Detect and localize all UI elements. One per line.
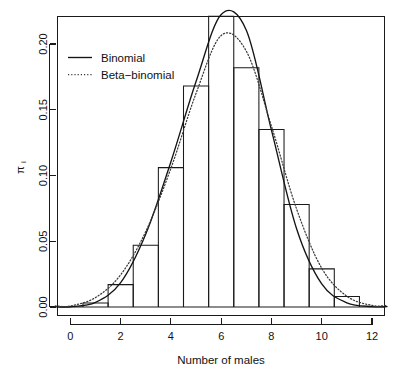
y-axis: 0.00 0.05 0.10 0.15 0.20 π i <box>14 33 56 317</box>
histogram-bar <box>234 68 259 307</box>
y-tick-label-3: 0.15 <box>37 99 49 120</box>
legend-label-binomial: Binomial <box>101 52 145 64</box>
y-axis-title-subscript: i <box>19 161 28 163</box>
histogram-bar <box>209 16 234 307</box>
chart-legend: Binomial Beta−binomial <box>68 52 174 81</box>
y-tick-label-1: 0.05 <box>37 231 49 252</box>
x-tick-label-6: 12 <box>366 330 378 342</box>
y-tick-group <box>50 44 57 307</box>
y-axis-title: π i <box>14 161 28 174</box>
x-tick-label-3: 6 <box>218 330 224 342</box>
x-tick-label-5: 10 <box>316 330 328 342</box>
x-axis: 0 2 4 6 8 10 12 Number of males <box>67 318 378 366</box>
histogram-bar <box>284 204 309 307</box>
x-tick-label-0: 0 <box>67 330 73 342</box>
x-tick-label-4: 8 <box>268 330 274 342</box>
histogram-bar <box>183 86 208 307</box>
chart-svg: 0.00 0.05 0.10 0.15 0.20 π i <box>0 0 397 381</box>
legend-label-beta-binomial: Beta−binomial <box>101 69 174 81</box>
y-axis-title-symbol: π <box>14 166 26 174</box>
x-tick-labels: 0 2 4 6 8 10 12 <box>67 330 378 342</box>
histogram-bar <box>108 285 133 307</box>
y-tick-label-0: 0.00 <box>37 296 49 317</box>
x-tick-group <box>70 318 372 325</box>
y-tick-label-2: 0.10 <box>37 165 49 186</box>
x-axis-title: Number of males <box>177 354 265 366</box>
chart-figure: 0.00 0.05 0.10 0.15 0.20 π i <box>0 0 397 381</box>
y-tick-labels: 0.00 0.05 0.10 0.15 0.20 <box>37 33 49 317</box>
x-tick-label-1: 2 <box>118 330 124 342</box>
histogram-bar <box>309 269 334 307</box>
x-tick-label-2: 4 <box>168 330 174 342</box>
y-tick-label-4: 0.20 <box>37 33 49 54</box>
